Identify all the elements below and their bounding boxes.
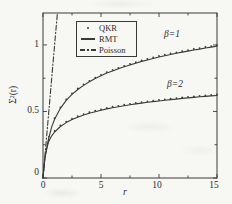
annotation-beta2: β=2 bbox=[167, 80, 183, 90]
qkr-beta1-data-point bbox=[129, 63, 131, 65]
qkr-beta2-data-point bbox=[193, 96, 195, 98]
qkr-beta2-data-point bbox=[135, 102, 137, 104]
qkr-beta2-data-point bbox=[187, 96, 189, 98]
qkr-beta2-data-point bbox=[123, 104, 125, 106]
annotation-beta1: β=1 bbox=[164, 30, 180, 40]
qkr-beta2-data-point bbox=[152, 100, 154, 102]
dot-marker-icon bbox=[77, 27, 99, 29]
qkr-beta1-data-point bbox=[89, 80, 91, 82]
legend-label-qkr: QKR bbox=[99, 24, 117, 33]
qkr-beta2-data-point bbox=[60, 125, 62, 127]
dash-dot-line-icon bbox=[77, 49, 99, 50]
qkr-beta1-data-point bbox=[112, 69, 114, 71]
qkr-beta2-data-point bbox=[65, 121, 67, 123]
qkr-beta2-data-point bbox=[141, 101, 143, 103]
qkr-beta2-data-point bbox=[176, 97, 178, 99]
qkr-beta1-data-point bbox=[210, 45, 212, 47]
qkr-beta1-data-point bbox=[147, 58, 149, 60]
qkr-beta1-data-point bbox=[71, 93, 73, 95]
qkr-beta2-data-point bbox=[170, 98, 172, 100]
legend-item-qkr: QKR bbox=[77, 23, 136, 33]
qkr-beta1-data-point bbox=[106, 71, 108, 73]
qkr-beta1-data-point bbox=[164, 54, 166, 56]
x-axis-label: r bbox=[120, 187, 130, 197]
legend-item-rmt: RMT bbox=[77, 34, 136, 44]
x-tick-label-5: 5 bbox=[97, 181, 105, 191]
qkr-beta1-data-point bbox=[94, 77, 96, 79]
qkr-beta1-data-point bbox=[60, 106, 62, 108]
qkr-beta1-data-point bbox=[123, 65, 125, 67]
qkr-beta1-data-point bbox=[199, 47, 201, 49]
qkr-beta1-data-point bbox=[83, 84, 85, 86]
qkr-beta1-data-point bbox=[158, 55, 160, 57]
legend-item-poisson: Poisson bbox=[77, 45, 136, 55]
qkr-beta1-data-point bbox=[216, 44, 218, 46]
qkr-beta1-data-point bbox=[181, 50, 183, 52]
qkr-beta2-data-point bbox=[83, 113, 85, 115]
qkr-beta2-data-point bbox=[77, 115, 79, 117]
qkr-beta2-data-point bbox=[147, 100, 149, 102]
x-tick-label-0: 0 bbox=[39, 181, 47, 191]
qkr-beta1-data-point bbox=[152, 57, 154, 59]
qkr-beta2-data-point bbox=[129, 103, 131, 105]
solid-line-icon bbox=[77, 38, 99, 39]
qkr-beta1-data-point bbox=[141, 60, 143, 62]
y-tick-label-1: 1 bbox=[24, 40, 39, 50]
qkr-beta2-data-point bbox=[205, 95, 207, 97]
poisson-curve bbox=[43, 13, 57, 178]
qkr-beta1-data-point bbox=[118, 67, 120, 69]
qkr-beta2-data-point bbox=[106, 107, 108, 109]
qkr-beta2-data-point bbox=[100, 108, 102, 110]
x-tick-label-15: 15 bbox=[207, 181, 221, 191]
qkr-beta2-data-point bbox=[118, 105, 120, 107]
qkr-beta1-data-point bbox=[193, 48, 195, 50]
qkr-beta1-data-point bbox=[54, 117, 56, 119]
legend-box: QKR RMT Poisson bbox=[76, 21, 137, 57]
qkr-beta1-data-point bbox=[187, 49, 189, 51]
legend-label-rmt: RMT bbox=[99, 35, 117, 44]
qkr-beta2-data-point bbox=[216, 94, 218, 96]
qkr-beta1-data-point bbox=[176, 51, 178, 53]
qkr-beta2-data-point bbox=[164, 98, 166, 100]
y-axis-label: Σ²(r) bbox=[9, 79, 19, 111]
qkr-beta1-data-point bbox=[48, 136, 50, 138]
qkr-beta2-data-point bbox=[158, 99, 160, 101]
qkr-beta2-data-point bbox=[71, 118, 73, 120]
y-tick-label-0: 0 bbox=[24, 168, 39, 178]
legend-label-poisson: Poisson bbox=[99, 46, 125, 55]
qkr-beta1-data-point bbox=[170, 53, 172, 55]
qkr-beta2-data-point bbox=[48, 139, 50, 141]
qkr-beta1-data-point bbox=[100, 74, 102, 76]
y-tick-label-0_5: 0.5 bbox=[24, 106, 39, 116]
qkr-beta2-data-point bbox=[94, 110, 96, 112]
qkr-beta2-data-point bbox=[54, 130, 56, 132]
qkr-beta1-data-point bbox=[65, 99, 67, 101]
qkr-beta2-data-point bbox=[210, 94, 212, 96]
qkr-beta1-data-point bbox=[205, 46, 207, 48]
qkr-beta1-data-point bbox=[135, 61, 137, 63]
qkr-beta2-data-point bbox=[112, 106, 114, 108]
rmt-beta1-curve bbox=[43, 46, 217, 178]
qkr-beta2-data-point bbox=[199, 95, 201, 97]
qkr-beta2-data-point bbox=[89, 111, 91, 113]
qkr-beta2-data-point bbox=[181, 97, 183, 99]
qkr-beta1-data-point bbox=[77, 88, 79, 90]
x-tick-label-10: 10 bbox=[150, 181, 164, 191]
rmt-beta2-curve bbox=[43, 96, 217, 179]
scanned-figure: 1 0.5 0 0 5 10 15 Σ²(r) r β=1 β=2 QKR RM… bbox=[0, 0, 232, 204]
